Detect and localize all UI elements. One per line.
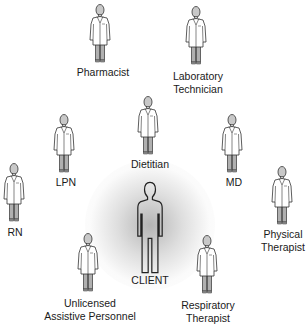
rn-label: RN — [7, 226, 22, 239]
md-label: MD — [226, 176, 242, 189]
healthcare-worker-icon — [52, 114, 76, 174]
pharmacist-figure — [88, 4, 112, 64]
unlicensed-assistive-personnel-figure — [76, 233, 100, 293]
md-figure — [220, 114, 244, 174]
client-figure — [135, 180, 165, 275]
client-person-icon — [135, 180, 165, 275]
dietitian-figure — [136, 96, 160, 156]
healthcare-worker-icon — [76, 233, 100, 293]
healthcare-worker-icon — [270, 166, 294, 226]
respiratory-therapist-figure — [195, 235, 219, 295]
client-label: CLIENT — [131, 274, 168, 287]
physical-therapist-label: Physical Therapist — [261, 228, 305, 254]
laboratory-technician-figure — [184, 6, 208, 66]
physical-therapist-figure — [270, 166, 294, 226]
healthcare-worker-icon — [195, 235, 219, 295]
lpn-figure — [52, 114, 76, 174]
respiratory-therapist-label: Respiratory Therapist — [181, 299, 235, 325]
healthcare-worker-icon — [136, 96, 160, 156]
healthcare-worker-icon — [2, 163, 26, 223]
healthcare-worker-icon — [220, 114, 244, 174]
lpn-label: LPN — [56, 176, 76, 189]
rn-figure — [2, 163, 26, 223]
pharmacist-label: Pharmacist — [77, 66, 130, 79]
laboratory-technician-label: Laboratory Technician — [173, 70, 223, 96]
healthcare-worker-icon — [88, 4, 112, 64]
healthcare-worker-icon — [184, 6, 208, 66]
unlicensed-assistive-personnel-label: Unlicensed Assistive Personnel — [44, 297, 136, 323]
dietitian-label: Dietitian — [131, 158, 169, 171]
